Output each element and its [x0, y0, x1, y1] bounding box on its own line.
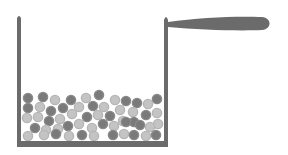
particle	[51, 129, 60, 138]
particle	[121, 117, 130, 126]
particle	[67, 109, 76, 118]
particle	[64, 131, 73, 140]
particle	[22, 113, 31, 122]
particle	[44, 116, 53, 125]
particle	[129, 130, 138, 139]
particle	[81, 93, 90, 102]
particle	[82, 112, 91, 121]
particle	[141, 110, 150, 119]
particle	[23, 131, 32, 140]
particle	[93, 110, 102, 119]
particle	[108, 130, 117, 139]
particle	[105, 111, 114, 120]
particle	[77, 130, 86, 139]
particle	[152, 108, 161, 117]
particle	[66, 95, 75, 104]
particle	[89, 131, 98, 140]
particle	[132, 98, 141, 107]
pot-diagram	[0, 0, 288, 155]
particle	[99, 102, 108, 111]
particle	[74, 102, 83, 111]
particle	[143, 99, 152, 108]
particle	[94, 90, 103, 99]
particle	[115, 105, 124, 114]
particle	[98, 119, 107, 128]
particle	[23, 103, 32, 112]
particle	[152, 94, 161, 103]
particle	[58, 103, 67, 112]
pot-handle	[168, 17, 270, 31]
particle	[38, 92, 47, 101]
particle	[128, 107, 137, 116]
particle	[109, 121, 118, 130]
particle	[23, 93, 32, 102]
particle	[145, 122, 154, 131]
particle	[39, 130, 48, 139]
particle	[88, 101, 97, 110]
particle	[30, 123, 39, 132]
particle	[50, 95, 59, 104]
particles	[22, 90, 162, 140]
particle	[55, 114, 64, 123]
particle	[141, 131, 150, 140]
particle	[119, 129, 128, 138]
particle	[35, 102, 44, 111]
particle	[121, 96, 130, 105]
particle	[33, 112, 42, 121]
particle	[46, 106, 55, 115]
particle	[63, 121, 72, 130]
particle	[74, 119, 83, 128]
particle	[151, 130, 160, 139]
particle	[110, 95, 119, 104]
particle	[135, 120, 144, 129]
